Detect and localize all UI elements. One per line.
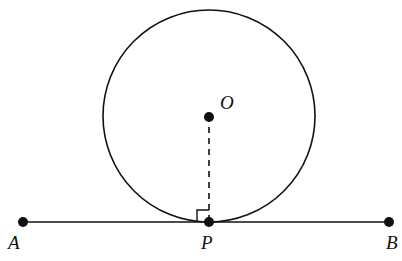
point-b bbox=[384, 217, 394, 227]
label-p: P bbox=[201, 233, 213, 252]
diagram-canvas bbox=[0, 0, 402, 261]
point-p bbox=[204, 217, 214, 227]
label-a: A bbox=[8, 233, 20, 252]
label-o: O bbox=[220, 93, 234, 112]
point-o bbox=[204, 112, 214, 122]
geometry-diagram: A P B O bbox=[0, 0, 402, 261]
point-a bbox=[18, 217, 28, 227]
label-b: B bbox=[386, 233, 398, 252]
